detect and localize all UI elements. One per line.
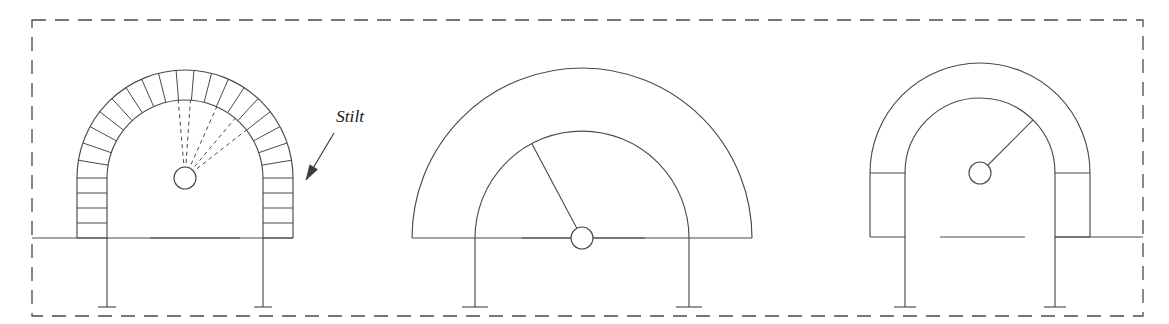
arch2-centre-marker bbox=[571, 227, 593, 249]
arch1-centre-marker bbox=[174, 167, 196, 189]
arch-diagram-canvas: Stilt bbox=[0, 0, 1169, 324]
arch-diagram-figure: Stilt bbox=[0, 0, 1169, 324]
arch3-centre-marker bbox=[969, 162, 991, 184]
figure-background bbox=[0, 0, 1169, 324]
stilt-label-text: Stilt bbox=[336, 106, 365, 126]
